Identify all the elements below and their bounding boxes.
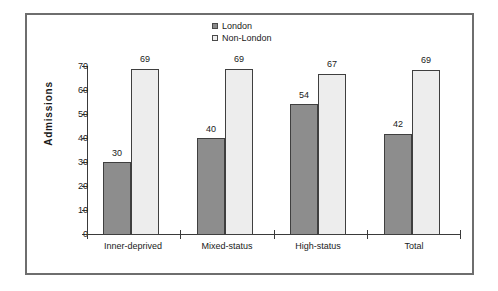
- chart-figure: London Non-London Admissions 70 60 50 40…: [0, 0, 498, 291]
- bar-value-non-london-mixed-status: 69: [215, 55, 263, 64]
- y-tick-label: 50: [62, 110, 88, 119]
- plot-area: Admissions 70 60 50 40 30 20 10 0 30 69 …: [0, 0, 498, 291]
- x-category-label-high-status: High-status: [261, 241, 375, 251]
- x-tick-mark: [87, 230, 88, 239]
- bar-non-london-high-status: [318, 74, 346, 235]
- bar-london-total: [384, 134, 412, 235]
- y-tick-label: 30: [62, 158, 88, 167]
- bar-london-high-status: [290, 104, 318, 235]
- y-tick-label: 40: [62, 134, 88, 143]
- x-tick-mark: [180, 230, 181, 239]
- y-tick-label: 70: [62, 62, 88, 71]
- y-tick-label: 10: [62, 206, 88, 215]
- bar-london-inner-deprived: [103, 162, 131, 235]
- bar-value-non-london-high-status: 67: [308, 60, 356, 69]
- x-tick-mark: [367, 230, 368, 239]
- x-category-label-total: Total: [362, 241, 466, 251]
- bar-non-london-mixed-status: [225, 69, 253, 235]
- x-tick-mark: [460, 230, 461, 239]
- bar-non-london-inner-deprived: [131, 69, 159, 235]
- bar-non-london-total: [412, 70, 440, 235]
- x-tick-mark: [274, 230, 275, 239]
- bar-value-non-london-inner-deprived: 69: [121, 55, 169, 64]
- y-tick-label: 20: [62, 182, 88, 191]
- bar-london-mixed-status: [197, 138, 225, 235]
- y-tick-label: 60: [62, 86, 88, 95]
- bar-value-non-london-total: 69: [402, 56, 450, 65]
- y-tick-label: 0: [62, 230, 88, 239]
